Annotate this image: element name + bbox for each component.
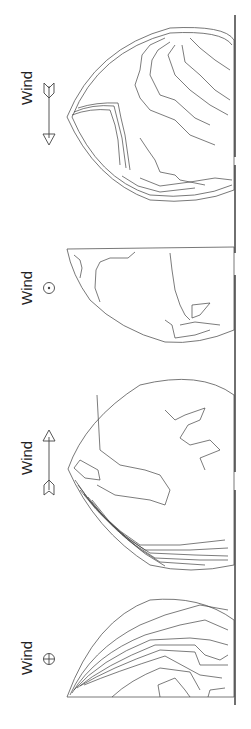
teardrop-outline xyxy=(67,28,234,202)
panel-3: Wind xyxy=(18,275,235,570)
contour-lines xyxy=(72,38,232,192)
wind-label: Wind xyxy=(18,441,35,475)
teardrop-outline xyxy=(67,247,234,343)
wind-label: Wind xyxy=(18,271,35,305)
panel-2: Wind xyxy=(18,165,235,343)
figure-canvas: Wind Wind xyxy=(0,0,251,729)
wind-out-of-page-icon xyxy=(44,283,55,294)
contour-lines xyxy=(70,605,228,697)
wind-label: Wind xyxy=(18,641,35,675)
contour-lines xyxy=(74,252,220,338)
wind-label: Wind xyxy=(18,71,35,105)
panel-4: Wind xyxy=(18,490,235,705)
panel-1: Wind xyxy=(18,15,235,201)
teardrop-inner-outline xyxy=(72,33,232,197)
wind-arrow-up-icon xyxy=(43,430,55,495)
wind-arrow-down-icon xyxy=(43,83,55,145)
teardrop-outline xyxy=(67,599,234,697)
teardrop-outline xyxy=(68,379,234,570)
wind-into-page-icon xyxy=(44,654,55,665)
